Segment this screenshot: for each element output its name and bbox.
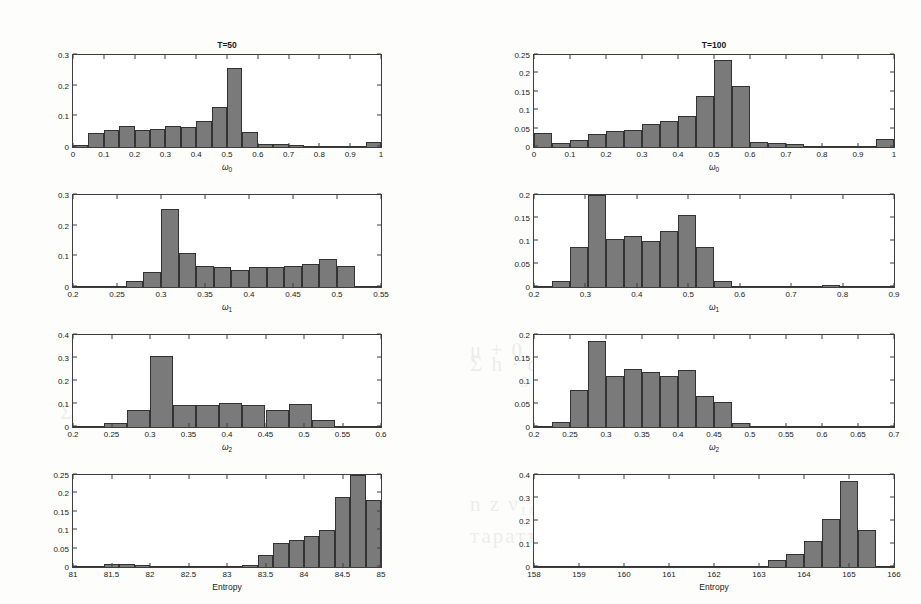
x-tick-label: 0.4 bbox=[631, 290, 642, 299]
histogram-bar bbox=[126, 281, 144, 287]
x-tick-mark bbox=[381, 423, 382, 427]
x-tick-mark bbox=[265, 563, 266, 567]
x-tick-label: 161 bbox=[662, 570, 675, 579]
y-tick-mark bbox=[73, 334, 77, 335]
y-tick-mark bbox=[534, 334, 538, 335]
histogram-bar bbox=[750, 426, 768, 427]
histogram-bar bbox=[335, 426, 358, 427]
x-tick-mark bbox=[894, 143, 895, 147]
x-tick-mark bbox=[714, 143, 715, 147]
x-tick-label: 0.7 bbox=[780, 150, 791, 159]
x-tick-mark bbox=[227, 563, 228, 567]
histogram-bar bbox=[135, 565, 150, 567]
x-tick-mark bbox=[350, 143, 351, 147]
x-tick-mark bbox=[759, 475, 760, 479]
histogram-bar bbox=[319, 259, 337, 287]
x-tick-mark bbox=[642, 143, 643, 147]
x-tick-label: 81.5 bbox=[104, 570, 120, 579]
y-tick-mark bbox=[73, 54, 77, 55]
y-tick-mark bbox=[890, 263, 894, 264]
axes-box: 00.050.10.150.20.20.250.30.350.40.450.50… bbox=[533, 334, 895, 428]
histogram-bar bbox=[91, 286, 109, 287]
x-tick-mark bbox=[642, 335, 643, 339]
x-tick-label: 0.4 bbox=[243, 290, 254, 299]
y-tick-label: 0.1 bbox=[58, 112, 69, 121]
y-tick-mark bbox=[377, 357, 381, 358]
histogram-bar bbox=[696, 396, 714, 427]
histogram-panel-w2-T50: 00.10.20.30.40.20.250.30.350.40.450.50.5… bbox=[72, 334, 382, 428]
y-tick-mark bbox=[890, 240, 894, 241]
x-tick-mark bbox=[842, 195, 843, 199]
histogram-bar bbox=[732, 86, 750, 147]
x-tick-mark bbox=[894, 283, 895, 287]
x-tick-mark bbox=[606, 335, 607, 339]
x-tick-mark bbox=[894, 423, 895, 427]
histogram-bar bbox=[165, 566, 180, 567]
x-tick-label: 0.3 bbox=[155, 290, 166, 299]
y-tick-mark bbox=[534, 286, 538, 287]
x-tick-label: 0.3 bbox=[580, 290, 591, 299]
histogram-bar bbox=[150, 129, 165, 147]
x-tick-mark bbox=[161, 283, 162, 287]
x-tick-label: 0.6 bbox=[816, 430, 827, 439]
y-tick-label: 0 bbox=[526, 143, 530, 152]
y-tick-label: 0.1 bbox=[58, 252, 69, 261]
x-tick-mark bbox=[579, 563, 580, 567]
axes-box: 00.10.20.30.40.20.250.30.350.40.450.50.5… bbox=[72, 334, 382, 428]
x-tick-mark bbox=[791, 195, 792, 199]
histogram-bar bbox=[606, 566, 624, 567]
histogram-bar bbox=[642, 566, 660, 567]
histogram-bar bbox=[642, 241, 660, 287]
x-tick-mark bbox=[570, 143, 571, 147]
x-tick-label: 0 bbox=[71, 150, 75, 159]
x-tick-label: 0.35 bbox=[181, 430, 197, 439]
x-tick-mark bbox=[73, 283, 74, 287]
histogram-bar bbox=[552, 422, 570, 427]
plot-area bbox=[534, 335, 894, 427]
y-tick-mark bbox=[73, 146, 77, 147]
x-tick-mark bbox=[111, 423, 112, 427]
y-tick-mark bbox=[377, 547, 381, 548]
x-tick-mark bbox=[534, 335, 535, 339]
histogram-bar bbox=[822, 426, 840, 427]
x-tick-mark bbox=[714, 335, 715, 339]
histogram-bar bbox=[266, 410, 289, 427]
x-tick-mark bbox=[293, 195, 294, 199]
histogram-bar bbox=[822, 146, 840, 147]
x-tick-label: 1 bbox=[892, 150, 896, 159]
y-tick-mark bbox=[534, 520, 538, 521]
histogram-bar bbox=[768, 286, 786, 287]
histogram-bar bbox=[588, 195, 606, 287]
x-tick-label: 158 bbox=[527, 570, 540, 579]
x-tick-label: 0.5 bbox=[683, 290, 694, 299]
histogram-bar bbox=[161, 209, 179, 287]
x-tick-label: 0.25 bbox=[109, 290, 125, 299]
x-axis-label: ω0 bbox=[709, 162, 719, 172]
y-tick-label: 0.2 bbox=[58, 221, 69, 230]
x-tick-mark bbox=[288, 143, 289, 147]
x-tick-mark bbox=[804, 475, 805, 479]
y-tick-mark bbox=[534, 217, 538, 218]
x-tick-mark bbox=[103, 55, 104, 59]
x-tick-mark bbox=[642, 55, 643, 59]
x-tick-mark bbox=[350, 55, 351, 59]
x-tick-label: 0.7 bbox=[283, 150, 294, 159]
y-tick-mark bbox=[534, 240, 538, 241]
y-tick-mark bbox=[73, 255, 77, 256]
x-tick-mark bbox=[570, 423, 571, 427]
y-tick-label: 0.2 bbox=[519, 69, 530, 78]
histogram-panel-w1-T100: 00.050.10.150.20.20.30.40.50.60.70.80.9ω… bbox=[533, 194, 895, 288]
histogram-bar bbox=[696, 566, 714, 567]
histogram-panel-w0-T50: T=5000.10.20.300.10.20.30.40.50.60.70.80… bbox=[72, 54, 382, 148]
x-tick-mark bbox=[669, 475, 670, 479]
x-tick-mark bbox=[750, 335, 751, 339]
x-tick-mark bbox=[669, 563, 670, 567]
y-tick-mark bbox=[377, 529, 381, 530]
histogram-bar bbox=[150, 356, 173, 427]
y-tick-mark bbox=[73, 224, 77, 225]
y-tick-mark bbox=[377, 255, 381, 256]
y-tick-mark bbox=[534, 54, 538, 55]
y-tick-mark bbox=[377, 492, 381, 493]
histogram-bar bbox=[588, 566, 606, 567]
y-tick-mark bbox=[534, 109, 538, 110]
